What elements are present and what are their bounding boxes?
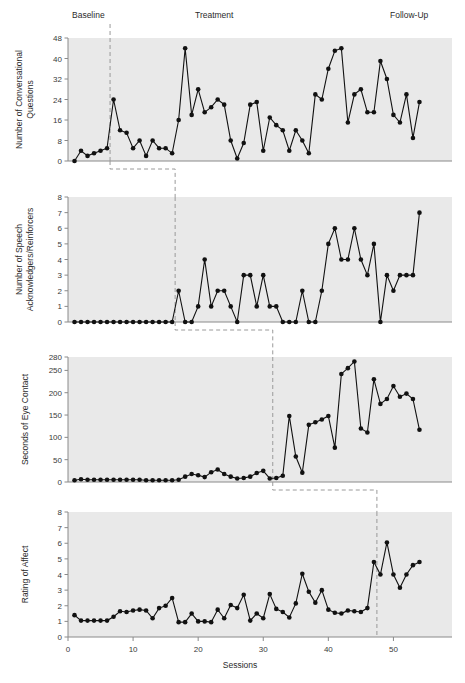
data-point: [98, 148, 103, 153]
data-point: [320, 417, 325, 422]
y-tick-label: 7: [58, 209, 63, 218]
data-point: [404, 273, 409, 278]
data-point: [131, 146, 136, 151]
data-point: [189, 472, 194, 477]
data-point: [157, 146, 162, 151]
data-point: [254, 471, 259, 476]
x-tick-label: 20: [194, 645, 203, 654]
data-point: [378, 59, 383, 64]
data-point: [176, 288, 181, 293]
data-point: [313, 420, 318, 425]
data-point: [241, 476, 246, 481]
y-tick-label: 200: [49, 389, 63, 398]
data-point: [222, 102, 227, 107]
panel-3: 050100150200250280Seconds of Eye Contact: [20, 353, 452, 487]
data-point: [131, 320, 136, 325]
data-point: [235, 320, 240, 325]
data-point: [307, 151, 312, 156]
y-tick-label: 16: [53, 116, 62, 125]
data-point: [170, 596, 175, 601]
y-tick-label: 0: [58, 633, 63, 642]
data-point: [124, 610, 129, 615]
y-tick-label: 0: [58, 478, 63, 487]
data-point: [85, 618, 90, 623]
y-axis-title: Questions: [25, 80, 35, 118]
data-point: [72, 159, 77, 164]
data-point: [85, 477, 90, 482]
y-tick-label: 48: [53, 34, 62, 43]
y-tick-label: 100: [49, 433, 63, 442]
data-point: [267, 304, 272, 309]
data-point: [339, 372, 344, 377]
data-point: [105, 146, 110, 151]
x-tick-label: 50: [389, 645, 398, 654]
data-point: [111, 477, 116, 482]
data-point: [267, 476, 272, 481]
data-point: [215, 288, 220, 293]
data-point: [359, 257, 364, 262]
data-point: [98, 320, 103, 325]
data-point: [176, 620, 181, 625]
y-axis-title: Rating of Affect: [20, 545, 30, 603]
panel-1: 081624324048Number of ConversationalQues…: [14, 24, 452, 166]
data-point: [248, 273, 253, 278]
data-point: [254, 100, 259, 105]
data-point: [378, 402, 383, 407]
data-point: [287, 615, 292, 620]
y-tick-label: 24: [53, 96, 62, 105]
data-point: [378, 320, 383, 325]
data-point: [118, 609, 123, 614]
data-point: [248, 618, 253, 623]
y-tick-label: 32: [53, 75, 62, 84]
data-point: [385, 397, 390, 402]
data-point: [111, 614, 116, 619]
data-point: [267, 592, 272, 597]
data-point: [274, 607, 279, 612]
data-point: [261, 148, 266, 153]
data-point: [209, 105, 214, 110]
data-point: [150, 320, 155, 325]
panel-background: [68, 197, 452, 322]
data-point: [320, 588, 325, 593]
data-point: [72, 613, 77, 618]
data-point: [398, 394, 403, 399]
data-point: [294, 601, 299, 606]
data-point: [248, 102, 253, 107]
y-tick-label: 2: [58, 602, 63, 611]
phase-label-2: Follow-Up: [390, 10, 429, 20]
data-point: [98, 477, 103, 482]
data-point: [105, 618, 110, 623]
data-point: [144, 320, 149, 325]
y-tick-label: 3: [58, 586, 63, 595]
data-point: [352, 609, 357, 614]
data-point: [300, 138, 305, 143]
y-tick-label: 150: [49, 411, 63, 420]
data-point: [280, 128, 285, 133]
data-point: [222, 616, 227, 621]
data-point: [352, 92, 357, 97]
data-point: [209, 470, 214, 475]
data-point: [398, 273, 403, 278]
y-axis-title: Acknowledgers/Reinforcers: [25, 208, 35, 311]
data-point: [92, 618, 97, 623]
data-point: [307, 589, 312, 594]
panel-4: 012345678Rating of Affect: [20, 508, 452, 642]
data-point: [215, 97, 220, 102]
data-point: [189, 320, 194, 325]
data-point: [235, 606, 240, 611]
data-point: [372, 242, 377, 247]
data-point: [417, 427, 422, 432]
data-point: [372, 560, 377, 565]
data-point: [333, 49, 338, 54]
data-point: [79, 618, 84, 623]
data-point: [398, 585, 403, 590]
data-point: [417, 210, 422, 215]
panel-2: 012345678Number of SpeechAcknowledgers/R…: [14, 193, 452, 327]
data-point: [339, 46, 344, 51]
data-point: [339, 611, 344, 616]
data-point: [287, 414, 292, 419]
data-point: [287, 148, 292, 153]
data-point: [411, 397, 416, 402]
data-point: [163, 146, 168, 151]
data-point: [202, 619, 207, 624]
